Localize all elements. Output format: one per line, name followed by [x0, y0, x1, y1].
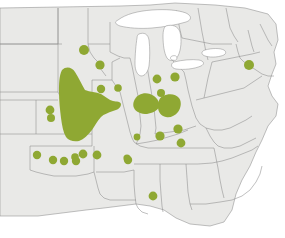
occurrence-dot [157, 89, 165, 97]
occurrence-dot [114, 84, 122, 92]
occurrence-dot [173, 124, 182, 133]
occurrence-dot [123, 154, 130, 161]
occurrence-dot [79, 45, 89, 55]
occurrence-dot [33, 151, 41, 159]
occurrence-dot [95, 60, 104, 69]
occurrence-dot [46, 106, 55, 115]
occurrence-dot [93, 151, 102, 160]
occurrence-dot [60, 157, 68, 165]
lake-michigan [135, 33, 150, 76]
occurrence-dot [244, 60, 254, 70]
occurrence-dot [170, 72, 179, 81]
occurrence-dot [49, 156, 57, 164]
lake-ontario [202, 49, 226, 58]
occurrence-dot [153, 75, 162, 84]
occurrence-dot [149, 192, 158, 201]
occurrence-dot [155, 131, 164, 140]
lake-huron [163, 25, 181, 60]
occurrence-dot [177, 139, 186, 148]
occurrence-dot [47, 114, 55, 122]
occurrence-dot [134, 134, 141, 141]
distribution-map-figure [0, 0, 285, 238]
occurrence-dot [71, 153, 79, 161]
occurrence-dot [79, 150, 88, 159]
lake-st-clair [171, 56, 178, 61]
occurrence-dot [97, 85, 105, 93]
map-canvas [0, 0, 285, 238]
